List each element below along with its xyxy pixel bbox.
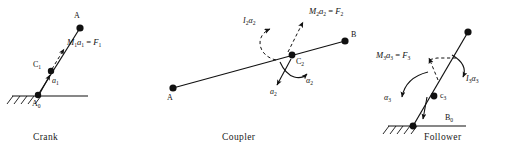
panel-follower <box>383 28 472 134</box>
coupler-label-A: A <box>167 93 173 102</box>
follower-inertia-force-arrow <box>429 58 438 80</box>
caption-coupler: Coupler <box>222 132 255 142</box>
caption-crank: Crank <box>33 132 58 142</box>
crank-label-inertia-force: M1a1 = F1 <box>67 37 101 48</box>
follower-label-C3: c3 <box>440 91 446 101</box>
coupler-label-inertia-torque: I2α2 <box>243 16 255 26</box>
coupler-label-B: B <box>351 30 356 39</box>
coupler-center-of-mass-C2 <box>289 52 296 59</box>
follower-link <box>413 32 468 126</box>
coupler-label-inertia-force: M2a2 = F2 <box>309 6 343 17</box>
follower-label-inertia-force: M3a3 = F3 <box>376 50 410 61</box>
coupler-joint-B <box>341 37 348 44</box>
coupler-label-angular-acceleration: α2 <box>306 76 313 86</box>
follower-label-B0: B0 <box>445 113 453 123</box>
coupler-label-acceleration: a2 <box>270 87 277 97</box>
crank-joint-A <box>76 24 83 31</box>
panel-coupler <box>169 22 348 92</box>
follower-label-angular-acceleration: α3 <box>384 93 391 103</box>
coupler-joint-A <box>169 84 176 91</box>
coupler-inertia-torque-arc <box>260 29 276 60</box>
figure-canvas: A C1 A0 M1a1 = F1 a1 A B C2 I2α2 M2a2 = … <box>0 0 508 156</box>
crank-label-C1: C1 <box>33 60 41 70</box>
follower-angular-acceleration-arc <box>402 72 428 97</box>
coupler-inertia-force-vector <box>288 22 303 52</box>
follower-label-inertia-torque: I3α3 <box>466 74 478 84</box>
coupler-link <box>173 41 345 88</box>
crank-center-of-mass-C1 <box>48 68 54 74</box>
follower-center-of-mass-C3 <box>431 93 438 100</box>
coupler-label-C2: C2 <box>296 57 304 67</box>
caption-follower: Follower <box>424 132 462 142</box>
crank-label-A: A <box>74 11 80 20</box>
follower-joint-B0 <box>410 123 417 130</box>
crank-label-A0: A0 <box>32 99 41 109</box>
crank-acceleration-vector <box>40 75 50 93</box>
coupler-acceleration-vector <box>277 59 291 85</box>
crank-label-acceleration: a1 <box>52 76 59 86</box>
follower-joint-B <box>464 28 471 35</box>
